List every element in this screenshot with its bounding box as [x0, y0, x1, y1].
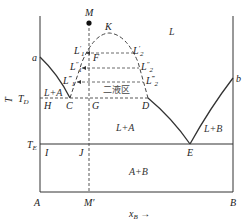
label-M-prime: M′: [84, 198, 95, 208]
label-b: b: [236, 74, 241, 84]
label-A: A: [34, 198, 40, 208]
axis-label-T: T: [4, 97, 14, 103]
label-H: H: [44, 101, 51, 111]
arrow-L1ppp: [77, 80, 81, 84]
label-L1-triple-prime: L‴1: [63, 75, 75, 88]
label-TE: TE: [27, 140, 37, 152]
region-A-plus-B: A+B: [129, 167, 148, 177]
label-K: K: [105, 22, 112, 32]
label-L1-double-prime: L″1: [70, 61, 82, 74]
label-M: M: [85, 8, 93, 18]
label-I: I: [45, 148, 48, 158]
liquidus-b-E: [190, 78, 233, 144]
label-B: B: [230, 198, 236, 208]
label-a: a: [32, 53, 37, 63]
liquidus-D-E: [148, 98, 190, 144]
arrow-right-icon: →: [140, 208, 150, 219]
label-TD: TD: [18, 94, 29, 106]
region-L-plus-A-lower: L+A: [116, 123, 134, 133]
label-L2-triple-prime: L‴2: [146, 75, 158, 88]
point-M-dot: [86, 20, 91, 25]
region-L-plus-B: L+B: [204, 124, 222, 134]
phase-diagram: [0, 0, 246, 224]
region-L-plus-A-upper: L+A: [44, 88, 62, 98]
label-G: G: [92, 101, 99, 111]
label-F: F: [93, 53, 99, 63]
arrow-L1pp: [82, 66, 86, 70]
label-D: D: [142, 101, 149, 111]
label-J: J: [79, 148, 83, 158]
label-L1-prime: L′1: [74, 45, 85, 58]
label-C: C: [66, 101, 73, 111]
region-L: L: [169, 27, 175, 37]
region-two-liquid: 二液区: [103, 86, 130, 95]
label-E: E: [187, 148, 193, 158]
label-L2-double-prime: L″2: [141, 61, 153, 74]
axis-label-xB: xB →: [129, 209, 150, 221]
label-L2-prime: L′2: [133, 45, 144, 58]
